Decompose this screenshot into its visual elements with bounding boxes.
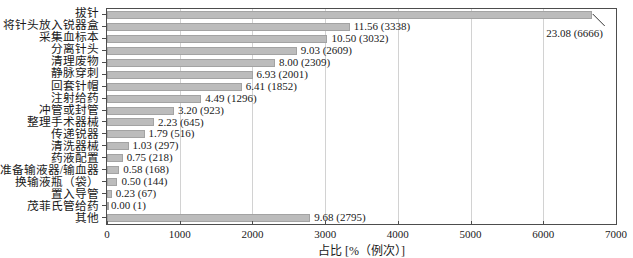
x-tick-label: 7000 [605, 228, 627, 240]
bar [107, 214, 310, 222]
category-label: 整理手术器械 [0, 117, 103, 129]
category-label: 其他 [0, 213, 103, 225]
category-label: 清洗器械 [0, 141, 103, 153]
y-tick-mark [102, 217, 106, 218]
x-tick-mark [543, 221, 544, 224]
x-tick-mark [471, 221, 472, 224]
bar [107, 107, 174, 115]
x-tick-mark [180, 221, 181, 224]
gridline-x-6000 [543, 9, 544, 224]
y-tick-mark [102, 157, 106, 158]
category-label: 回套针帽 [0, 80, 103, 92]
bar [107, 142, 129, 150]
bar [107, 202, 109, 210]
y-tick-mark [102, 74, 106, 75]
bar [107, 118, 154, 126]
bar-value-label: 4.49 (1296) [205, 93, 256, 105]
x-tick-mark [398, 221, 399, 224]
bar-value-label: 9.68 (2795) [314, 212, 365, 224]
bar [107, 11, 592, 19]
gridline-x-5000 [471, 9, 472, 224]
bar-value-label: 9.03 (2609) [301, 45, 352, 57]
bar [107, 59, 275, 67]
bar [107, 23, 350, 31]
y-tick-mark [102, 86, 106, 87]
plot-area: 23.08 (6666)11.56 (3338)10.50 (3032)9.03… [106, 8, 617, 225]
bar-value-label: 6.41 (1852) [246, 81, 297, 93]
bar [107, 71, 253, 79]
category-label: 静脉穿刺 [0, 68, 103, 80]
category-label: 传递锐器 [0, 129, 103, 141]
y-tick-mark [102, 169, 106, 170]
y-tick-mark [102, 98, 106, 99]
y-tick-mark [102, 110, 106, 111]
x-tick-mark [616, 221, 617, 224]
y-tick-mark [102, 145, 106, 146]
y-tick-mark [102, 62, 106, 63]
category-label: 注射给药 [0, 92, 103, 104]
bar [107, 190, 112, 198]
bar [107, 178, 117, 186]
y-tick-mark [102, 181, 106, 182]
horizontal-bar-chart: 拔针将针头放入锐器盒采集血标本分离针头清理废物静脉穿刺回套针帽注射给药冲管或封管… [0, 0, 633, 258]
y-tick-mark [102, 133, 106, 134]
y-tick-mark [102, 26, 106, 27]
annotation-value-label: 23.08 (6666) [546, 27, 603, 39]
bar [107, 130, 145, 138]
bar [107, 166, 119, 174]
category-label: 冲管或封管 [0, 105, 103, 117]
x-axis-title: 占比 [%（例次）] [106, 241, 617, 258]
bar [107, 35, 327, 43]
x-tick-label: 5000 [460, 228, 482, 240]
x-tick-mark [325, 221, 326, 224]
gridline-x-4000 [398, 9, 399, 224]
bar-value-label: 6.93 (2001) [257, 69, 308, 81]
bar [107, 47, 297, 55]
bar-value-label: 0.00 (1) [111, 200, 146, 212]
y-tick-mark [102, 193, 106, 194]
x-tick-label: 2000 [241, 228, 263, 240]
x-tick-label: 3000 [314, 228, 336, 240]
bar [107, 95, 201, 103]
bar-value-label: 3.20 (923) [178, 105, 224, 117]
x-tick-label: 1000 [169, 228, 191, 240]
bar [107, 154, 123, 162]
x-tick-mark [107, 221, 108, 224]
x-tick-label: 4000 [387, 228, 409, 240]
y-tick-mark [102, 14, 106, 15]
bar [107, 83, 242, 91]
y-tick-mark [102, 38, 106, 39]
y-axis-labels: 拔针将针头放入锐器盒采集血标本分离针头清理废物静脉穿刺回套针帽注射给药冲管或封管… [0, 8, 103, 225]
x-tick-mark [252, 221, 253, 224]
y-tick-mark [102, 121, 106, 122]
bar-value-label: 8.00 (2309) [279, 57, 330, 69]
y-tick-mark [102, 50, 106, 51]
x-tick-label: 0 [104, 228, 110, 240]
x-tick-label: 6000 [532, 228, 554, 240]
y-tick-mark [102, 205, 106, 206]
category-label: 药液配置 [0, 153, 103, 165]
